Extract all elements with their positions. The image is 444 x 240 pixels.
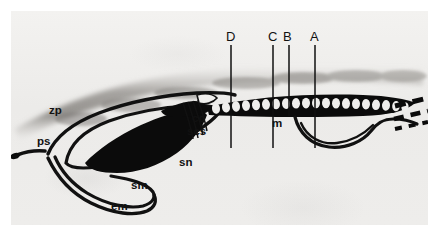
micrograph-plate: D C B A zp ps cc scs sn sm em m	[11, 11, 428, 225]
primitive-streak-ps	[17, 151, 45, 155]
embryo-diagram: D C B A zp ps cc scs sn sm em m	[11, 11, 428, 225]
section-plane-label-b: B	[283, 29, 292, 44]
label-cc: cc	[192, 112, 205, 124]
label-sm: sm	[131, 179, 148, 191]
label-ps: ps	[37, 135, 50, 147]
figure-container: D C B A zp ps cc scs sn sm em m	[0, 0, 444, 240]
section-plane-label-c: C	[268, 29, 277, 44]
label-scs: scs	[187, 125, 206, 137]
mesoderm-fold-m	[295, 117, 417, 147]
label-em: em	[111, 200, 128, 212]
label-sn: sn	[179, 156, 192, 168]
label-m: m	[272, 117, 282, 129]
cephalic-canal-cc	[197, 94, 217, 104]
label-zp: zp	[49, 104, 62, 116]
section-plane-label-d: D	[226, 29, 235, 44]
section-plane-label-a: A	[310, 29, 319, 44]
